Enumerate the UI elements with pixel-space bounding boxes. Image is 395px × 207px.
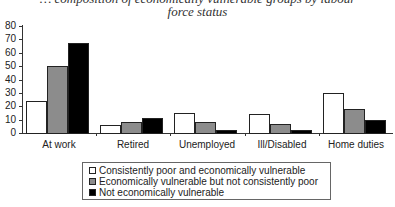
y-tick-label: 0	[0, 128, 16, 138]
bar-at-work-series-2	[68, 43, 89, 134]
bar-home-duties-series-0	[323, 93, 344, 134]
y-axis	[22, 25, 23, 134]
y-tick-mark	[19, 80, 22, 81]
bar-unemployed-series-2	[216, 130, 237, 134]
x-tick-mark	[170, 133, 171, 136]
x-category-label: Unemployed	[170, 139, 244, 150]
y-tick-label: 80	[0, 21, 16, 31]
y-tick-mark	[19, 120, 22, 121]
y-tick-label: 20	[0, 101, 16, 111]
x-tick-mark	[96, 133, 97, 136]
bar-ill-disabled-series-2	[291, 130, 312, 134]
y-tick-label: 30	[0, 88, 16, 98]
chart-title-line-2: force status	[0, 5, 395, 19]
legend-item-0: Consistently poor and economically vulne…	[89, 165, 324, 176]
bar-unemployed-series-0	[174, 113, 195, 134]
y-tick-mark	[19, 66, 22, 67]
legend-label: Not economically vulnerable	[99, 187, 224, 198]
legend: Consistently poor and economically vulne…	[82, 162, 331, 200]
bar-home-duties-series-1	[344, 109, 365, 134]
bar-retired-series-1	[121, 122, 142, 134]
bar-home-duties-series-2	[365, 120, 386, 134]
legend-swatch-gray	[89, 178, 96, 185]
y-tick-label: 10	[0, 115, 16, 125]
bar-ill-disabled-series-0	[249, 114, 270, 134]
legend-item-2: Not economically vulnerable	[89, 187, 324, 198]
y-tick-mark	[19, 26, 22, 27]
bar-ill-disabled-series-1	[270, 124, 291, 134]
x-tick-mark	[319, 133, 320, 136]
bar-at-work-series-0	[26, 101, 47, 134]
legend-label: Consistently poor and economically vulne…	[99, 165, 305, 176]
legend-swatch-black	[89, 189, 96, 196]
y-tick-mark	[19, 53, 22, 54]
x-category-label: Retired	[96, 139, 170, 150]
bar-retired-series-2	[142, 118, 163, 134]
x-category-label: At work	[22, 139, 96, 150]
y-tick-mark	[19, 93, 22, 94]
legend-label: Economically vulnerable but not consiste…	[99, 176, 318, 187]
x-category-label: Ill/Disabled	[245, 139, 319, 150]
bar-retired-series-0	[100, 125, 121, 134]
legend-item-1: Economically vulnerable but not consiste…	[89, 176, 324, 187]
y-tick-label: 60	[0, 48, 16, 58]
y-tick-mark	[19, 39, 22, 40]
bar-unemployed-series-1	[195, 122, 216, 134]
y-tick-label: 40	[0, 75, 16, 85]
y-tick-mark	[19, 133, 22, 134]
y-tick-mark	[19, 106, 22, 107]
legend-swatch-white	[89, 167, 96, 174]
y-tick-label: 50	[0, 61, 16, 71]
x-tick-mark	[245, 133, 246, 136]
bar-at-work-series-1	[47, 66, 68, 134]
x-category-label: Home duties	[319, 139, 393, 150]
y-tick-label: 70	[0, 34, 16, 44]
